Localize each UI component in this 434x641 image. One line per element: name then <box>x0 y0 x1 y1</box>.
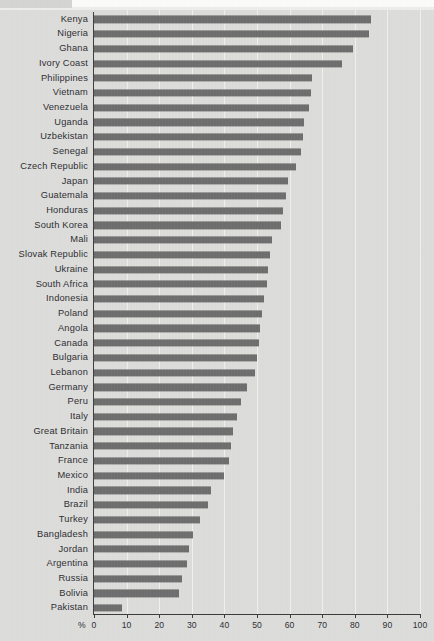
bar-row: Mexico <box>0 468 434 483</box>
bar-row: Kenya <box>0 12 434 27</box>
bar-category-label: Nigeria <box>0 29 93 38</box>
bar-track <box>93 395 434 410</box>
bar-row: Venezuela <box>0 100 434 115</box>
bar-category-label: Lebanon <box>0 368 93 377</box>
bar-track <box>93 365 434 380</box>
bar-category-label: Great Britain <box>0 427 93 436</box>
bar <box>94 428 233 435</box>
bar-row: Turkey <box>0 512 434 527</box>
x-axis-tick-labels: % 0102030405060708090100 <box>0 620 434 634</box>
bar-category-label: Indonesia <box>0 294 93 303</box>
bar-row: Honduras <box>0 203 434 218</box>
bar-row: Bangladesh <box>0 527 434 542</box>
bar-track <box>93 571 434 586</box>
x-tick-label: 70 <box>317 620 327 630</box>
x-tick-label: 60 <box>285 620 295 630</box>
bar-track <box>93 86 434 101</box>
bar <box>94 575 182 582</box>
bar <box>94 531 193 538</box>
bar <box>94 251 270 258</box>
bar <box>94 605 122 612</box>
bar <box>94 487 211 494</box>
x-tick-label: 30 <box>187 620 197 630</box>
bar <box>94 237 272 244</box>
x-axis-unit-label: % <box>78 620 86 630</box>
bar-category-label: Slovak Republic <box>0 250 93 259</box>
bar-category-label: Bulgaria <box>0 353 93 362</box>
bar-row: South Africa <box>0 277 434 292</box>
bar-category-label: Brazil <box>0 500 93 509</box>
bar-row: Vietnam <box>0 86 434 101</box>
bar-track <box>93 130 434 145</box>
x-tick-40 <box>224 614 225 618</box>
bar-track <box>93 203 434 218</box>
bar-row: Argentina <box>0 557 434 572</box>
bar-track <box>93 424 434 439</box>
bar-row: Germany <box>0 380 434 395</box>
bar <box>94 369 255 376</box>
bar-category-label: Italy <box>0 412 93 421</box>
bar <box>94 75 312 82</box>
page-gutter <box>0 0 72 8</box>
bar-track <box>93 439 434 454</box>
bar <box>94 295 264 302</box>
bar <box>94 16 371 23</box>
bar <box>94 501 208 508</box>
x-tick-80 <box>355 614 356 618</box>
bar-row: Brazil <box>0 498 434 513</box>
bar-category-label: Poland <box>0 309 93 318</box>
bar-row: Senegal <box>0 144 434 159</box>
bar-rows: KenyaNigeriaGhanaIvory CoastPhilippinesV… <box>0 12 434 615</box>
bar-row: Bulgaria <box>0 351 434 366</box>
bar-row: Ukraine <box>0 262 434 277</box>
bar-track <box>93 306 434 321</box>
bar-track <box>93 41 434 56</box>
bar-category-label: Russia <box>0 574 93 583</box>
bar <box>94 148 301 155</box>
x-tick-70 <box>322 614 323 618</box>
bar-category-label: Venezuela <box>0 103 93 112</box>
bar-row: Ghana <box>0 41 434 56</box>
bar <box>94 413 237 420</box>
x-tick-label: 90 <box>383 620 393 630</box>
x-tick-label: 100 <box>413 620 427 630</box>
bar-category-label: Turkey <box>0 515 93 524</box>
bar <box>94 222 281 229</box>
bar-track <box>93 498 434 513</box>
bar-category-label: Honduras <box>0 206 93 215</box>
bar-track <box>93 27 434 42</box>
bar <box>94 546 189 553</box>
bar-track <box>93 321 434 336</box>
bar-track <box>93 527 434 542</box>
bar-track <box>93 189 434 204</box>
bar-track <box>93 468 434 483</box>
x-tick-0 <box>94 614 95 618</box>
bar <box>94 163 296 170</box>
bar-category-label: Ukraine <box>0 265 93 274</box>
bar-category-label: Japan <box>0 177 93 186</box>
bar-category-label: Kenya <box>0 15 93 24</box>
bar <box>94 340 259 347</box>
bar <box>94 207 283 214</box>
bar-category-label: Argentina <box>0 559 93 568</box>
x-tick-100 <box>420 614 421 618</box>
x-tick-10 <box>127 614 128 618</box>
bar <box>94 134 303 141</box>
bar-track <box>93 144 434 159</box>
bar <box>94 384 247 391</box>
x-tick-label: 40 <box>220 620 230 630</box>
bar-row: Poland <box>0 306 434 321</box>
x-tick-20 <box>159 614 160 618</box>
bar <box>94 310 262 317</box>
bar <box>94 398 241 405</box>
bar-track <box>93 409 434 424</box>
bar-row: Peru <box>0 395 434 410</box>
bar-track <box>93 71 434 86</box>
bar-category-label: Vietnam <box>0 88 93 97</box>
bar-row: Uganda <box>0 115 434 130</box>
bar-category-label: Germany <box>0 383 93 392</box>
bar-row: Japan <box>0 174 434 189</box>
bar-track <box>93 454 434 469</box>
bar-row: Philippines <box>0 71 434 86</box>
bar-category-label: India <box>0 486 93 495</box>
